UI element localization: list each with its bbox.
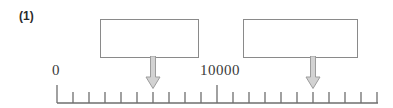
tick-group [57,85,377,103]
item-number-label: (1) [19,9,34,23]
number-line-figure: (1) 0 10000 [0,0,393,108]
answer-box-right[interactable] [243,19,358,58]
down-arrow-right-icon [305,56,321,90]
axis-label-ten-thousand: 10000 [200,62,240,78]
down-arrow-left-icon [145,56,161,90]
axis-label-zero: 0 [52,62,60,78]
answer-box-left[interactable] [100,19,199,58]
